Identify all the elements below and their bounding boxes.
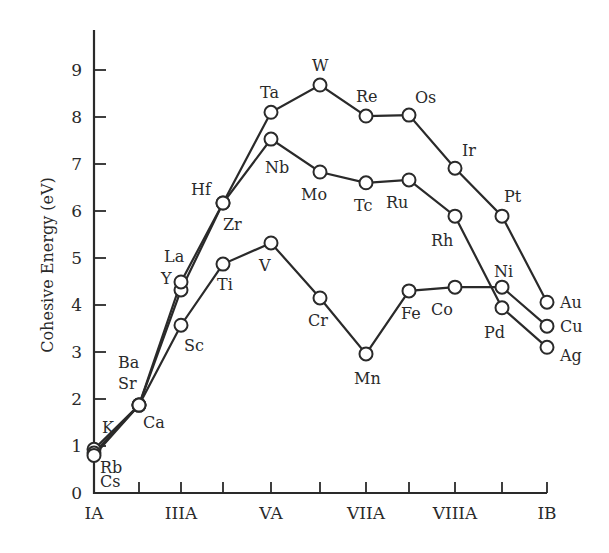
data-point-marker [496,301,509,314]
element-label: Fe [401,304,421,323]
data-point-marker [496,210,509,223]
element-label: Pt [504,187,522,206]
y-tick-label: 3 [71,342,82,362]
data-point-marker [541,341,554,354]
data-point-marker [449,162,462,175]
data-point-marker [403,284,416,297]
element-label: Ni [494,262,513,281]
element-labels: KCaScTiVCrMnFeCoNiCuRbSrYZrNbMoTcRuRhPdA… [100,56,583,491]
data-point-marker [175,275,188,288]
cohesive-energy-chart: Cohesive Energy (eV) 0123456789 IAIIIAVA… [0,0,609,553]
element-label: Co [431,300,453,319]
data-point-marker [88,449,101,462]
y-tick-label: 1 [71,436,82,456]
element-label: Nb [265,158,289,177]
element-label: Ag [559,346,582,365]
y-tick-label: 5 [71,248,82,268]
y-axis-ticks: 0123456789 [71,60,106,503]
element-label: Ba [118,353,140,372]
x-tick-label: IB [537,503,556,523]
element-label: Rh [431,231,453,250]
data-point-marker [265,236,278,249]
x-axis-ticks: IAIIIAVAVIIAVIIIAIB [85,482,557,523]
data-point-marker [265,106,278,119]
data-point-marker [541,296,554,309]
element-label: Ta [260,83,279,102]
data-point-marker [449,210,462,223]
element-label: K [102,418,115,437]
data-point-marker [403,109,416,122]
element-label: Au [559,293,582,312]
element-label: Mn [354,369,381,388]
data-point-marker [217,197,230,210]
element-label: Re [356,87,378,106]
element-label: Ti [217,275,233,294]
x-tick-label: VIIIA [432,503,478,523]
data-point-marker [496,281,509,294]
element-label: W [312,56,329,75]
data-point-marker [175,319,188,332]
x-tick-label: IIIA [165,503,198,523]
y-tick-label: 0 [71,483,82,503]
element-label: Cu [560,317,583,336]
element-label: Ru [386,193,408,212]
data-point-marker [360,347,373,360]
data-point-marker [265,133,278,146]
data-point-marker [314,165,327,178]
x-tick-label: IA [85,503,105,523]
data-point-marker [449,281,462,294]
element-label: V [258,256,271,275]
x-tick-label: VIIA [346,503,386,523]
data-point-marker [403,173,416,186]
data-point-marker [314,79,327,92]
data-point-marker [217,258,230,271]
element-label: Cr [308,311,328,330]
element-label: Mo [301,185,327,204]
data-point-marker [541,320,554,333]
element-label: Ir [462,141,476,160]
element-label: Pd [484,323,505,342]
element-label: Os [415,88,436,107]
data-point-marker [133,399,146,412]
y-tick-label: 4 [71,295,82,315]
element-label: Cs [100,472,120,491]
y-tick-label: 6 [71,201,82,221]
y-tick-label: 2 [71,389,82,409]
element-label: Y [160,269,172,288]
y-tick-label: 9 [71,60,82,80]
element-label: Sc [184,336,204,355]
data-point-marker [360,110,373,123]
x-tick-label: VA [258,503,283,523]
element-label: La [164,247,185,266]
element-label: Sr [118,374,137,393]
element-label: Hf [191,180,212,199]
element-label: Ca [143,413,165,432]
element-label: Zr [223,215,242,234]
y-tick-label: 7 [71,154,82,174]
data-point-marker [360,176,373,189]
element-label: Tc [354,196,372,215]
y-tick-label: 8 [71,107,82,127]
data-point-marker [314,291,327,304]
y-axis-title: Cohesive Energy (eV) [38,177,57,353]
